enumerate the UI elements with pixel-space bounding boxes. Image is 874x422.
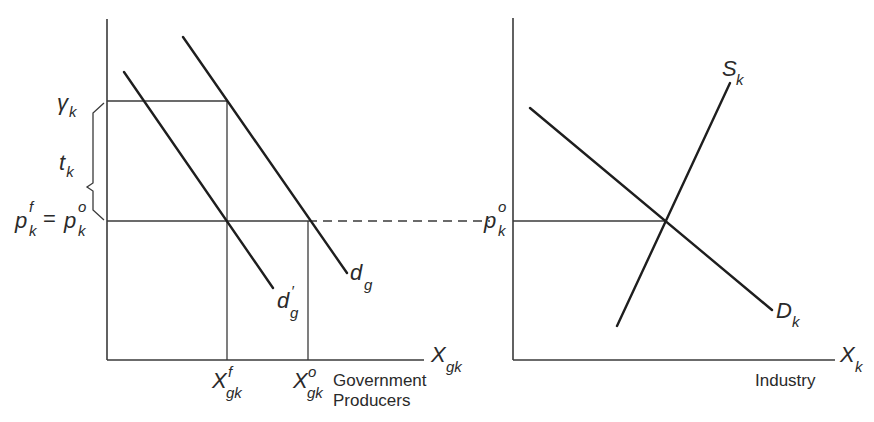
xo-label: X o gk bbox=[292, 363, 324, 401]
xk-axis-label: X k bbox=[839, 342, 864, 375]
svg-text:p: p bbox=[14, 208, 27, 233]
svg-text:k: k bbox=[736, 71, 745, 88]
svg-text:gk: gk bbox=[226, 384, 243, 401]
left-panel: γk tk p f k = p o k d ′ g d g X f gk bbox=[14, 19, 490, 410]
dk-label: D k bbox=[776, 298, 801, 330]
diagram-canvas: γk tk p f k = p o k d ′ g d g X f gk bbox=[0, 0, 874, 422]
svg-text:k: k bbox=[29, 222, 38, 239]
svg-text:X: X bbox=[430, 342, 447, 367]
gamma-label: γk bbox=[57, 90, 78, 120]
tax-label: tk bbox=[59, 150, 75, 180]
svg-text:X: X bbox=[839, 342, 856, 367]
svg-text:gk: gk bbox=[307, 384, 324, 401]
svg-text:k: k bbox=[498, 222, 507, 239]
svg-text:D: D bbox=[776, 298, 792, 323]
dg-curve bbox=[183, 37, 347, 273]
svg-text:d: d bbox=[277, 288, 290, 313]
right-panel: p o k S k D k X k Industry bbox=[483, 18, 864, 390]
price-equality-label: p f k = p o k bbox=[14, 198, 87, 239]
svg-text:=: = bbox=[43, 206, 56, 231]
svg-text:d: d bbox=[350, 260, 363, 285]
demand-curve-dk bbox=[530, 108, 772, 310]
svg-text:o: o bbox=[498, 198, 506, 215]
svg-text:k: k bbox=[792, 313, 801, 330]
government-caption: Government bbox=[333, 371, 427, 390]
xf-label: X f gk bbox=[211, 363, 243, 401]
pk-right-label: p o k bbox=[483, 198, 507, 239]
svg-text:k: k bbox=[78, 222, 87, 239]
svg-text:p: p bbox=[63, 208, 76, 233]
industry-caption: Industry bbox=[755, 371, 816, 390]
svg-text:gk: gk bbox=[446, 358, 463, 375]
svg-text:g: g bbox=[364, 276, 373, 293]
svg-text:f: f bbox=[29, 198, 35, 215]
tax-brace-icon bbox=[87, 103, 104, 220]
dg-prime-curve bbox=[124, 72, 273, 288]
svg-text:′: ′ bbox=[291, 282, 295, 299]
xgk-axis-label: X gk bbox=[430, 342, 463, 375]
svg-text:o: o bbox=[308, 363, 316, 380]
svg-text:k: k bbox=[855, 358, 864, 375]
supply-curve-sk bbox=[617, 83, 730, 326]
svg-text:f: f bbox=[228, 363, 234, 380]
dg-label: d g bbox=[350, 260, 373, 293]
svg-text:p: p bbox=[483, 208, 496, 233]
svg-text:S: S bbox=[722, 56, 737, 81]
producers-caption: Producers bbox=[333, 391, 410, 410]
svg-text:o: o bbox=[78, 198, 86, 215]
sk-label: S k bbox=[722, 56, 745, 88]
svg-text:g: g bbox=[290, 304, 299, 321]
dg-prime-label: d ′ g bbox=[277, 282, 299, 321]
